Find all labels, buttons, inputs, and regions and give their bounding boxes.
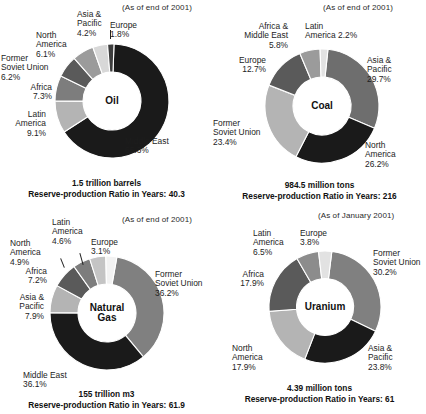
slice-label-coal-former-soviet-union: Former Soviet Union 23.4% — [213, 119, 261, 147]
pie-slice — [269, 309, 315, 359]
caption-uranium-ratio: Reserve-production Ratio in Years: 61 — [213, 394, 426, 404]
slice-label-gas-africa: Africa 7.2% — [0, 267, 47, 286]
chart-panel-coal: (As of end of 2001) Coal Asia & Pacific … — [213, 0, 426, 207]
slice-label-gas-middle-east: Middle East 36.1% — [23, 371, 67, 390]
chart-panel-uranium: (As of January 2001) Uranium Former Sovi… — [213, 207, 426, 414]
leader-line-oil-europe — [110, 30, 111, 39]
slice-label-oil-africa: Africa 7.3% — [0, 83, 52, 102]
caption-oil-total: 1.5 trillion barrels — [0, 178, 213, 188]
asof-note-natural-gas: (As of end of 2001) — [122, 215, 192, 224]
slice-label-oil-north-america: North America 6.1% — [36, 31, 67, 59]
caption-coal-total: 984.5 million tons — [213, 180, 426, 190]
asof-note-uranium: (As of January 2001) — [318, 211, 394, 220]
slice-label-oil-middle-east: Middle East 65.3% — [125, 137, 169, 156]
slice-label-gas-asia-pacific: Asia & Pacific 7.9% — [0, 293, 44, 321]
caption-coal-ratio: Reserve-production Ratio in Years: 216 — [213, 191, 426, 201]
chart-panel-oil: (As of end of 2001) Oil Middle East 65.3… — [0, 0, 213, 207]
donut-chart-natural-gas: Natural Gas — [48, 254, 166, 372]
slice-label-gas-latin-america: Latin America 4.6% — [52, 218, 83, 246]
donut-chart-coal: Coal — [263, 47, 381, 165]
caption-uranium-total: 4.39 million tons — [213, 383, 426, 393]
donut-chart-uranium: Uranium — [267, 249, 383, 365]
pie-slice — [50, 313, 143, 370]
asof-note-oil: (As of end of 2001) — [122, 3, 192, 12]
asof-note-coal: (As of end of 2001) — [323, 3, 393, 12]
slice-label-oil-asia-pacific: Asia & Pacific 4.2% — [77, 10, 102, 38]
caption-gas-total: 155 trillion m3 — [0, 389, 213, 399]
slice-label-oil-europe: Europe 1.8% — [110, 21, 137, 40]
slice-label-gas-europe: Europe 3.1% — [91, 238, 118, 257]
slice-label-coal-europe: Europe 12.7% — [213, 56, 266, 75]
slice-label-gas-north-america: North America 4.9% — [10, 239, 41, 267]
slice-label-gas-former-soviet-union: Former Soviet Union 36.2% — [155, 270, 203, 298]
caption-oil-ratio: Reserve-production Ratio in Years: 40.3 — [0, 189, 213, 199]
caption-gas-ratio: Reserve-production Ratio in Years: 61.9 — [0, 400, 213, 410]
slice-label-coal-latin-america: Latin America 2.2% — [305, 22, 357, 41]
pie-slice — [296, 117, 375, 163]
slice-label-coal-africa-middle-east: Africa & Middle East 5.8% — [213, 22, 288, 50]
pie-slice — [305, 319, 376, 363]
slice-label-coal-north-america: North America 26.2% — [365, 141, 396, 169]
slice-label-oil-latin-america: Latin America 9.1% — [0, 110, 46, 138]
slice-label-uranium-africa: Africa 17.9% — [213, 270, 264, 289]
slice-label-uranium-europe: Europe 3.8% — [300, 229, 327, 248]
slice-label-uranium-latin-america: Latin America 6.5% — [253, 229, 284, 257]
slice-label-coal-asia-pacific: Asia & Pacific 29.7% — [367, 56, 392, 84]
slice-label-uranium-asia-pacific: Asia & Pacific 23.8% — [368, 344, 393, 372]
chart-panel-natural-gas: (As of end of 2001) Natural Gas Former S… — [0, 207, 213, 414]
slice-label-uranium-former-soviet-union: Former Soviet Union 30.2% — [373, 249, 421, 277]
slice-label-uranium-north-america: North America 17.9% — [232, 344, 263, 372]
